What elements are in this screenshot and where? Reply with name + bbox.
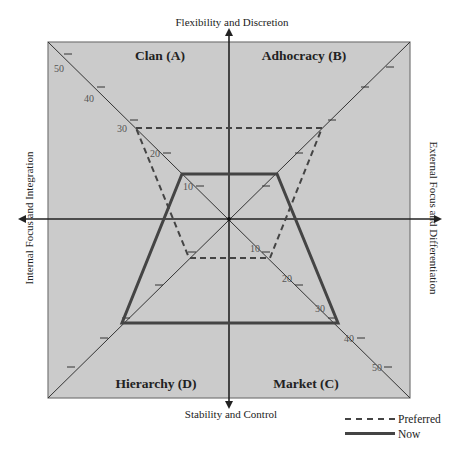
tick-label-ul-20: 20	[150, 148, 160, 159]
tick-label-lr-50: 50	[372, 362, 382, 373]
quadrant-clan-label: Clan (A)	[135, 48, 185, 63]
legend: Preferred Now	[345, 411, 441, 441]
tick-label-ul-30: 30	[117, 123, 127, 134]
axis-title-bottom: Stability and Control	[185, 408, 277, 420]
tick-label-ul-50: 50	[54, 63, 64, 74]
axis-title-top: Flexibility and Discretion	[175, 16, 289, 28]
tick-label-ul-10: 10	[183, 181, 193, 192]
axis-title-left: Internal Focus and Integration	[23, 151, 35, 284]
quadrant-market-label: Market (C)	[273, 376, 339, 391]
legend-label-preferred: Preferred	[398, 413, 441, 425]
quadrant-adhocracy-label: Adhocracy (B)	[262, 48, 346, 63]
axis-title-right: External Focus and Differentiation	[428, 142, 440, 295]
solid-line-icon	[345, 432, 395, 435]
quadrant-hierarchy-label: Hierarchy (D)	[115, 376, 196, 391]
dashed-line-icon	[345, 418, 395, 420]
tick-label-lr-10: 10	[250, 243, 260, 254]
tick-label-ul-40: 40	[84, 93, 94, 104]
tick-label-lr-40: 40	[344, 333, 354, 344]
tick-label-lr-20: 20	[282, 273, 292, 284]
legend-item-preferred: Preferred	[345, 411, 441, 426]
legend-label-now: Now	[398, 428, 420, 440]
legend-item-now: Now	[345, 426, 441, 441]
culture-chart: 10 20 30 40 50 10 20 30 40 50 Clan (A) A…	[0, 0, 464, 458]
tick-label-lr-30: 30	[315, 303, 325, 314]
